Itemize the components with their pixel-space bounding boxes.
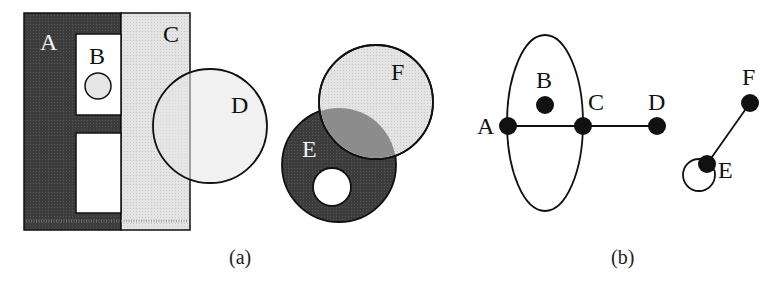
- panel-b: A B C D E F (b): [477, 35, 759, 269]
- node-label-e: E: [718, 157, 733, 183]
- node-a: [499, 117, 517, 135]
- label-e: E: [302, 136, 317, 162]
- label-a: A: [40, 29, 58, 55]
- node-b: [536, 96, 554, 114]
- node-c: [574, 117, 592, 135]
- label-c: C: [163, 21, 179, 47]
- node-label-c: C: [588, 89, 604, 115]
- node-f: [741, 94, 759, 112]
- edge-e-f: [707, 103, 750, 164]
- region-b-circle: [85, 73, 111, 99]
- panel-a: A B C D E F (a): [24, 13, 433, 269]
- region-lower-white: [76, 133, 121, 213]
- node-label-d: D: [648, 89, 665, 115]
- region-e-hole: [313, 168, 351, 206]
- region-d: [153, 69, 267, 183]
- node-e: [698, 155, 716, 173]
- figure: A B C D E F (a) A B C D E F (b): [0, 0, 779, 282]
- caption-b: (b): [611, 246, 634, 269]
- caption-a: (a): [229, 246, 251, 269]
- edge-ac-curved: [507, 35, 583, 211]
- node-label-a: A: [477, 113, 495, 139]
- label-b: B: [89, 43, 105, 69]
- label-f: F: [391, 59, 404, 85]
- node-label-b: B: [536, 67, 552, 93]
- node-d: [648, 117, 666, 135]
- node-label-f: F: [742, 64, 755, 90]
- label-d: D: [231, 92, 248, 118]
